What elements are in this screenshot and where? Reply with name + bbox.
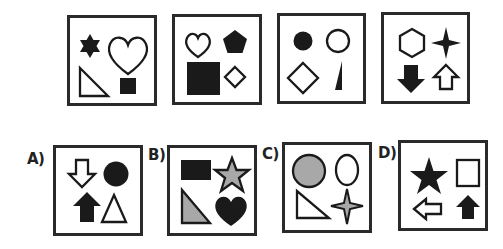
arrow-up-filled-icon — [456, 195, 480, 219]
figure-2-shapes — [175, 17, 259, 102]
figure-4-shapes — [384, 15, 467, 101]
arrow-up-filled-icon — [73, 192, 101, 222]
sequence-figure-1 — [67, 15, 157, 106]
arrow-down-icon — [397, 65, 425, 93]
heart-icon — [186, 34, 210, 57]
sequence-figure-3 — [277, 13, 366, 104]
triangle-outline-icon — [102, 195, 126, 222]
diamond-icon — [288, 63, 318, 93]
circle-filled-icon — [294, 32, 313, 51]
option-a-shapes — [56, 148, 140, 233]
arrow-left-outline-icon — [414, 199, 441, 219]
heart-icon — [109, 38, 147, 74]
arrow-up-icon — [434, 65, 458, 89]
option-a-label: A) — [27, 150, 44, 168]
option-b-shapes — [170, 148, 254, 233]
option-b-label: B) — [148, 146, 165, 164]
sequence-figure-2 — [172, 14, 262, 105]
sequence-figure-4 — [381, 12, 470, 104]
circle-outline-icon — [327, 30, 349, 52]
arrow-down-outline-icon — [69, 160, 95, 187]
right-triangle-icon — [80, 68, 108, 96]
thin-triangle-icon — [335, 61, 342, 90]
option-d-label: D) — [378, 144, 396, 162]
heart-filled-icon — [215, 197, 247, 226]
option-c-shapes — [285, 145, 369, 230]
square-icon — [120, 78, 136, 94]
hexagon-icon — [400, 29, 424, 57]
option-d-shapes — [401, 143, 485, 228]
option-c-label: C) — [262, 145, 279, 163]
right-triangle-outline-icon — [297, 191, 329, 218]
rectangle-outline-icon — [457, 160, 479, 186]
right-triangle-gray-icon — [182, 190, 210, 223]
pentagon-icon — [223, 30, 247, 53]
figure-1-shapes — [70, 18, 154, 103]
star-5-filled-icon — [410, 157, 448, 194]
star-5-gray-icon — [215, 158, 249, 191]
option-b[interactable] — [167, 145, 257, 236]
star-4-icon — [431, 27, 461, 59]
diamond-icon — [225, 67, 245, 87]
figure-3-shapes — [280, 16, 363, 101]
option-d[interactable] — [398, 140, 488, 231]
option-a[interactable] — [53, 145, 143, 236]
star-4-gray-icon — [331, 189, 363, 224]
ellipse-outline-icon — [336, 155, 358, 185]
circle-gray-icon — [293, 155, 325, 187]
square-icon — [187, 62, 220, 95]
rectangle-filled-icon — [181, 160, 211, 180]
star-6-icon — [80, 34, 100, 58]
option-c[interactable] — [282, 142, 372, 233]
circle-filled-icon — [104, 162, 129, 187]
